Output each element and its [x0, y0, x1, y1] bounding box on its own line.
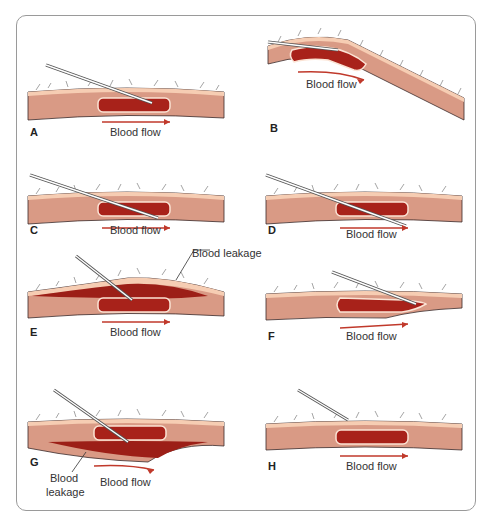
blood-flow-label: Blood flow [110, 126, 161, 138]
blood-flow-label: Blood flow [110, 224, 161, 236]
panel-g: G Blood leakage Blood flow [28, 400, 228, 500]
panel-e: Blood leakage E Blood flow [28, 270, 228, 350]
panel-b: Blood flow B [268, 28, 468, 128]
panel-letter: E [30, 326, 37, 338]
panel-letter: C [30, 224, 38, 236]
blood-leakage-callout-line1: Blood [50, 472, 78, 484]
blood-leakage-callout: Blood leakage [192, 247, 262, 259]
panel-f: F Blood flow [266, 280, 466, 360]
blood-flow-label: Blood flow [306, 78, 357, 90]
blood-flow-label: Blood flow [346, 330, 397, 342]
blood-flow-label: Blood flow [100, 476, 151, 488]
panel-letter: D [268, 224, 276, 236]
panel-letter: B [270, 122, 278, 134]
panel-letter: G [30, 456, 39, 468]
vein-illustration-h [266, 408, 466, 498]
vein-illustration-b [268, 28, 468, 128]
blood-leakage-callout-line2: leakage [46, 486, 85, 498]
panel-d: D Blood flow [266, 170, 466, 240]
blood-flow-label: Blood flow [346, 228, 397, 240]
blood-flow-label: Blood flow [110, 326, 161, 338]
panel-letter: H [268, 460, 276, 472]
panel-letter: F [268, 330, 275, 342]
panel-letter: A [30, 126, 38, 138]
panel-h: H Blood flow [266, 408, 466, 498]
vein-illustration-f [266, 280, 466, 360]
vein-illustration-e [28, 270, 228, 350]
blood-flow-label: Blood flow [346, 460, 397, 472]
panel-a: A Blood flow [28, 60, 228, 140]
panel-c: C Blood flow [28, 170, 228, 240]
